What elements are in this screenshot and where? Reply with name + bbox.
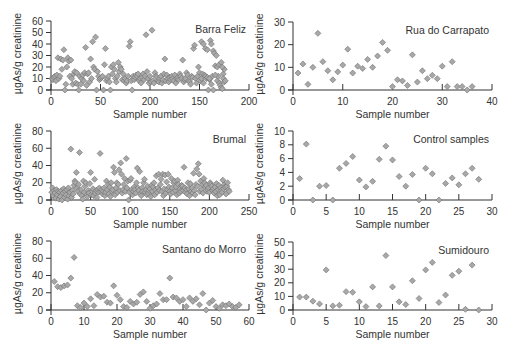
data-point-diamond: [394, 77, 400, 83]
x-tick-label: 15: [387, 316, 399, 327]
data-point-diamond: [317, 183, 323, 189]
data-point-diamond: [323, 267, 329, 273]
y-tick-label: 20: [32, 62, 44, 73]
data-point-diamond: [71, 254, 77, 260]
x-tick-label: 10: [337, 96, 349, 107]
data-point-diamond: [167, 275, 173, 281]
data-point-diamond: [336, 165, 342, 171]
data-point-diamond: [365, 56, 371, 62]
data-point-diamond: [469, 84, 475, 90]
y-tick-label: 80: [32, 236, 44, 247]
data-point-diamond: [399, 78, 405, 84]
x-tick-label: 60: [243, 316, 255, 327]
y-tick-label: 60: [32, 143, 44, 154]
y-tick-label: 0: [279, 305, 285, 316]
y-tick-label: 0: [37, 85, 43, 96]
data-point-diamond: [350, 70, 356, 76]
y-tick-label: 20: [32, 287, 44, 298]
y-tick-label: 20: [274, 39, 286, 50]
data-point-diamond: [370, 284, 376, 290]
data-point-diamond: [476, 307, 482, 313]
y-axis-title: µgAs/g creatinine: [253, 123, 265, 205]
y-tick-label: 10: [274, 62, 286, 73]
data-point-diamond: [429, 72, 435, 78]
x-tick-label: 0: [48, 206, 54, 217]
x-tick-label: 30: [437, 96, 449, 107]
y-tick-label: 50: [274, 237, 286, 248]
data-point-diamond: [404, 82, 410, 88]
data-point-diamond: [416, 197, 422, 203]
data-point-diamond: [429, 171, 435, 177]
data-point-diamond: [350, 289, 356, 295]
data-point-diamond: [63, 81, 69, 87]
data-point-diamond: [61, 47, 67, 53]
data-point-diamond: [297, 294, 303, 300]
data-point-diamond: [429, 259, 435, 265]
y-tick-label: 30: [274, 264, 286, 275]
data-point-diamond: [62, 87, 68, 93]
data-point-diamond: [317, 301, 323, 307]
x-tick-label: 50: [95, 96, 107, 107]
y-axis-title: µgAs/g creatinine: [11, 123, 23, 205]
y-tick-label: 6: [279, 153, 285, 164]
data-point-diamond: [370, 64, 376, 70]
data-point-diamond: [469, 165, 475, 171]
data-point-diamond: [444, 84, 450, 90]
data-point-diamond: [375, 53, 381, 59]
data-point-diamond: [97, 150, 103, 156]
x-tick-label: 10: [78, 316, 90, 327]
data-point-diamond: [409, 171, 415, 177]
data-point-diamond: [91, 303, 97, 309]
data-point-diamond: [376, 303, 382, 309]
x-tick-label: 0: [290, 96, 296, 107]
data-point-diamond: [303, 141, 309, 147]
data-point-diamond: [295, 70, 301, 76]
x-tick-label: 10: [354, 316, 366, 327]
data-point-diamond: [340, 62, 346, 68]
panel-title: Santano do Morro: [162, 243, 246, 255]
data-point-diamond: [144, 298, 150, 304]
x-tick-label: 50: [85, 206, 97, 217]
data-point-diamond: [476, 176, 482, 182]
y-tick-label: 80: [32, 126, 44, 137]
data-point-diamond: [162, 56, 168, 62]
data-point-diamond: [443, 292, 449, 298]
data-point-diamond: [414, 79, 420, 85]
x-tick-label: 20: [420, 206, 432, 217]
y-tick-label: 10: [274, 126, 286, 137]
panel-title: Rua do Carrapato: [406, 24, 490, 36]
data-point-diamond: [88, 169, 94, 175]
panel-title: Brumal: [213, 133, 246, 145]
figure-canvas: 0102030405060050200150200Sample numberµg…: [0, 0, 512, 358]
data-point-diamond: [436, 197, 442, 203]
panel-title: Sumidouro: [438, 244, 489, 256]
data-point-diamond: [118, 160, 124, 166]
data-point-diamond: [462, 171, 468, 177]
x-tick-label: 5: [323, 316, 329, 327]
y-tick-label: 0: [37, 195, 43, 206]
panel-brumal: 020406080050100150200250Sample numberµgA…: [11, 123, 258, 230]
data-point-diamond: [459, 84, 465, 90]
x-tick-label: 50: [210, 316, 222, 327]
data-point-diamond: [363, 304, 369, 310]
data-point-diamond: [111, 164, 117, 170]
data-point-diamond: [409, 278, 415, 284]
x-tick-label: 200: [201, 206, 218, 217]
data-point-diamond: [336, 302, 342, 308]
data-point-diamond: [423, 165, 429, 171]
x-tick-label: 250: [241, 206, 258, 217]
data-point-diamond: [195, 161, 201, 167]
data-point-diamond: [73, 169, 79, 175]
data-point-diamond: [390, 284, 396, 290]
data-point-diamond: [51, 279, 57, 285]
data-point-diamond: [305, 81, 311, 87]
data-point-diamond: [356, 177, 362, 183]
data-point-diamond: [380, 39, 386, 45]
x-axis-title: Sample number: [113, 108, 188, 120]
data-point-diamond: [297, 176, 303, 182]
data-point-diamond: [196, 64, 202, 70]
y-axis-title: µgAs/g creatinine: [253, 233, 265, 315]
x-tick-label: 20: [111, 316, 123, 327]
data-point-diamond: [456, 182, 462, 188]
data-point-diamond: [396, 174, 402, 180]
